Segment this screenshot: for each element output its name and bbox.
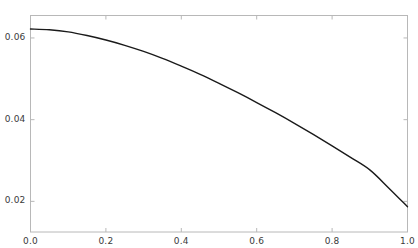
- y-tick-label-2: 0.06: [0, 33, 26, 42]
- plot-canvas: [0, 0, 418, 248]
- y-tick-label-0: 0.02: [0, 196, 26, 205]
- x-tick-label-1: 0.2: [86, 237, 126, 246]
- x-tick-label-2: 0.4: [161, 237, 201, 246]
- x-tick-label-5: 1.0: [388, 237, 418, 246]
- figure-background: [0, 0, 418, 248]
- x-tick-label-0: 0.0: [11, 237, 51, 246]
- x-tick-label-4: 0.8: [312, 237, 352, 246]
- chart-figure: 0.00.20.40.60.81.0 0.020.040.06: [0, 0, 418, 248]
- y-tick-label-1: 0.04: [0, 115, 26, 124]
- x-tick-label-3: 0.6: [237, 237, 277, 246]
